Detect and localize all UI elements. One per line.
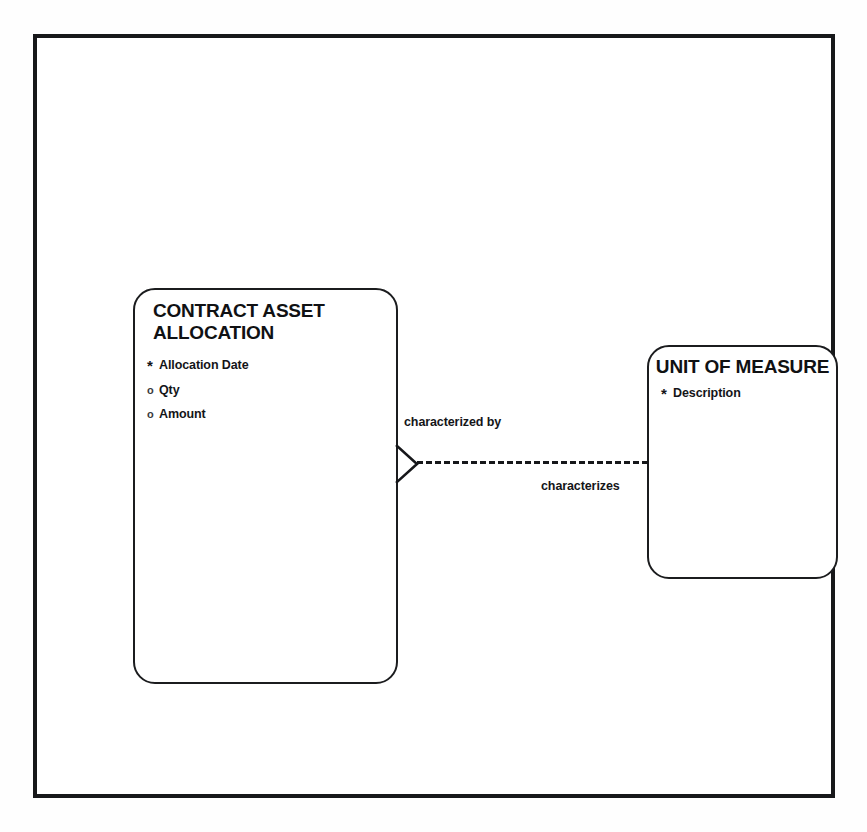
entity-unit-of-measure[interactable]: UNIT OF MEASURE * Description (647, 345, 838, 579)
diagram-frame-border: CONTRACT ASSET ALLOCATION * Allocation D… (33, 34, 835, 798)
attribute-name: Amount (159, 408, 206, 421)
attribute-row-qty: o Qty (147, 384, 249, 397)
relationship-label-characterized-by: characterized by (404, 415, 501, 429)
entity-title: CONTRACT ASSET ALLOCATION (153, 300, 325, 344)
diagram-page: CONTRACT ASSET ALLOCATION * Allocation D… (0, 0, 867, 832)
attribute-row-allocation-date: * Allocation Date (147, 359, 249, 372)
entity-contract-asset-allocation[interactable]: CONTRACT ASSET ALLOCATION * Allocation D… (133, 288, 398, 684)
entity-title: UNIT OF MEASURE (649, 356, 836, 378)
optional-marker-icon: o (147, 409, 159, 420)
attribute-list: * Description (661, 387, 741, 412)
crows-foot-icon (395, 444, 421, 484)
optional-marker-icon: o (147, 385, 159, 396)
relationship-label-characterizes: characterizes (541, 479, 620, 493)
attribute-name: Description (673, 387, 741, 400)
attribute-list: * Allocation Date o Qty o Amount (147, 359, 249, 433)
attribute-row-amount: o Amount (147, 408, 249, 421)
attribute-name: Qty (159, 384, 180, 397)
attribute-row-description: * Description (661, 387, 741, 400)
attribute-name: Allocation Date (159, 359, 249, 372)
relationship-dashed-line[interactable] (417, 461, 648, 464)
